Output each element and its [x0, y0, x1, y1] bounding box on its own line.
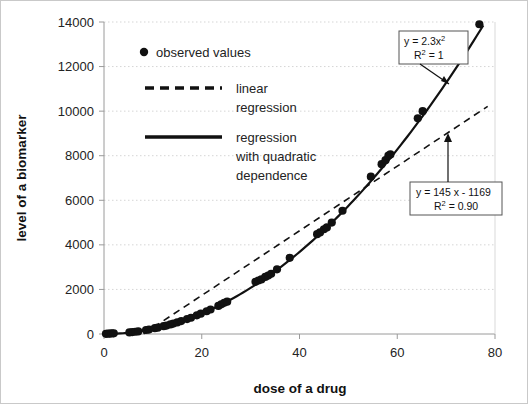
x-tick-label-20: 20: [195, 345, 209, 360]
data-point: [134, 327, 142, 335]
data-point: [475, 20, 483, 28]
x-tick-label-80: 80: [488, 345, 502, 360]
data-point: [386, 150, 394, 158]
y-tick-labels-group: 02000400060008000100001200014000: [58, 15, 94, 342]
x-tick-label-0: 0: [100, 345, 107, 360]
linear-annotation-equation: y = 145 x - 1169: [416, 186, 491, 198]
data-point: [367, 173, 375, 181]
x-tick-label-60: 60: [390, 345, 404, 360]
y-tick-label-8000: 8000: [65, 148, 94, 163]
data-point: [206, 305, 214, 313]
x-tick-label-40: 40: [292, 345, 306, 360]
data-point: [223, 298, 231, 306]
legend-label-quadratic-line1: regression: [236, 130, 297, 145]
legend-label-linear-line2: regression: [236, 100, 297, 115]
data-point: [419, 107, 427, 115]
data-point: [273, 265, 281, 273]
y-tick-label-4000: 4000: [65, 237, 94, 252]
data-point: [328, 218, 336, 226]
data-point: [110, 329, 118, 337]
y-tick-label-10000: 10000: [58, 104, 94, 119]
data-point: [414, 114, 422, 122]
chart-canvas: 02000400060008000100001200014000 0204060…: [0, 0, 528, 404]
y-tick-label-2000: 2000: [65, 282, 94, 297]
x-tick-labels-group: 020406080: [100, 345, 502, 360]
y-tick-label-14000: 14000: [58, 15, 94, 30]
linear-annotation-r2: R2 = 0.90: [434, 199, 478, 212]
legend-label-quadratic-line2: with quadratic: [235, 149, 317, 164]
legend-dot-marker: [140, 48, 148, 56]
x-tick-marks-group: [104, 334, 495, 339]
y-tick-marks-group: [99, 22, 104, 334]
chart-svg: 02000400060008000100001200014000 0204060…: [0, 0, 528, 404]
quadratic-annotation-equation: y = 2.3x2: [404, 34, 445, 47]
legend-label-quadratic-line3: dependence: [236, 168, 308, 183]
legend-label-linear-line1: linear: [236, 81, 268, 96]
x-axis-title: dose of a drug: [253, 381, 346, 396]
quadratic-annotation-r2: R2 = 1: [414, 48, 444, 61]
y-tick-label-12000: 12000: [58, 59, 94, 74]
y-tick-label-0: 0: [87, 327, 94, 342]
data-point: [286, 254, 294, 262]
y-axis-title: level of a biomarker: [14, 114, 29, 242]
y-tick-label-6000: 6000: [65, 193, 94, 208]
legend-label-observed: observed values: [156, 45, 251, 60]
data-point: [338, 207, 346, 215]
